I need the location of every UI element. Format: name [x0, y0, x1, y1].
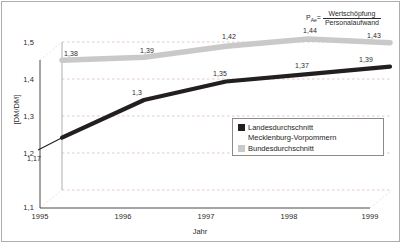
data-label-land-1996: 1,3: [132, 89, 142, 96]
depth-line-top-left: [40, 42, 62, 60]
legend-sublabel-mecklenburg: Mecklenburg-Vorpommern: [248, 133, 336, 142]
legend-swatch-gray-icon: [238, 145, 245, 152]
data-label-land-1995: 1,17: [27, 155, 41, 162]
data-label-land-1997: 1,35: [213, 70, 227, 77]
data-label-bund-1995: 1,38: [64, 50, 78, 57]
data-label-bund-1997: 1,42: [222, 33, 236, 40]
chart-container: 1,5 1,4 1,3 1,2 1,1 1995 1996 1997 1998 …: [0, 0, 403, 245]
legend: Landesdurchschnitt Mecklenburg-Vorpommer…: [232, 118, 384, 156]
x-tick-1995: 1995: [20, 212, 60, 221]
formula-numerator: Wertschöpfung: [326, 10, 377, 18]
series-leader-landesdurchschnitt: [38, 138, 62, 150]
y-axis-title: [DM/DM]: [12, 80, 21, 140]
formula-annotation: PAe= Wertschöpfung Personalaufwand: [306, 10, 381, 27]
formula-symbol: PAe=: [306, 14, 321, 23]
back-wall: [62, 42, 392, 178]
data-label-land-1998: 1,37: [295, 62, 309, 69]
x-tick-1999: 1999: [350, 212, 390, 221]
data-label-land-1999: 1,39: [359, 56, 373, 63]
formula-fraction: Wertschöpfung Personalaufwand: [323, 10, 381, 27]
legend-item-bundesdurchschnitt: Bundesdurchschnitt: [238, 144, 314, 153]
legend-swatch-dark-icon: [238, 124, 245, 131]
formula-denominator: Personalaufwand: [323, 19, 381, 27]
depth-line-bottom-left: [40, 190, 62, 208]
x-tick-1998: 1998: [269, 212, 309, 221]
x-tick-1996: 1996: [103, 212, 143, 221]
x-tick-1997: 1997: [186, 212, 226, 221]
data-label-bund-1996: 1,39: [140, 47, 154, 54]
legend-label-landesdurchschnitt: Landesdurchschnitt: [248, 123, 313, 132]
legend-label-bundesdurchschnitt: Bundesdurchschnitt: [248, 144, 314, 153]
formula-equals: =: [317, 14, 321, 21]
y-tick-1-1: 1,1: [8, 203, 34, 212]
legend-item-landesdurchschnitt: Landesdurchschnitt: [238, 123, 313, 132]
data-label-bund-1999: 1,43: [367, 32, 381, 39]
y-tick-1-5: 1,5: [8, 38, 34, 47]
depth-line-bottom-right: [370, 190, 392, 208]
x-axis-title: Jahr: [160, 227, 240, 236]
data-label-bund-1998: 1,44: [303, 27, 317, 34]
